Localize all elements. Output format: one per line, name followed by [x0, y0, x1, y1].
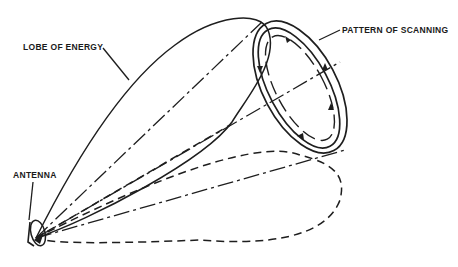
antenna-label: ANTENNA	[13, 170, 57, 180]
lobe-of-energy-label: LOBE OF ENERGY	[23, 42, 103, 52]
antenna-leader-line	[29, 182, 33, 220]
pattern-leader-line	[319, 30, 340, 40]
scanning-ring-band	[242, 16, 357, 161]
lobe-of-energy-dashed	[36, 151, 342, 242]
lobe-leader-line	[103, 48, 129, 80]
scanning-diagram: LOBE OF ENERGY PATTERN OF SCANNING ANTEN…	[0, 0, 458, 267]
pattern-of-scanning-label: PATTERN OF SCANNING	[342, 25, 449, 35]
